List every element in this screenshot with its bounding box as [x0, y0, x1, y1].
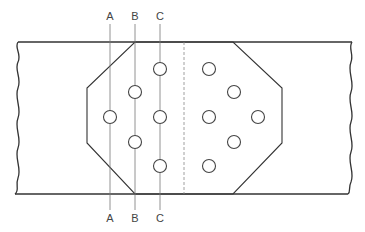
bolt-hole: [203, 160, 216, 173]
bolt-hole: [154, 111, 167, 124]
section-label-top-c: C: [156, 10, 164, 22]
section-label-bottom-b: B: [131, 212, 138, 224]
main-member: [15, 42, 352, 194]
section-label-bottom-a: A: [106, 212, 114, 224]
bolt-hole: [203, 63, 216, 76]
section-label-bottom-c: C: [156, 212, 164, 224]
bolt-hole: [129, 136, 142, 149]
right-break-line: [348, 42, 352, 194]
bolt-hole: [252, 111, 265, 124]
bolt-hole: [228, 136, 241, 149]
section-label-top-b: B: [131, 10, 138, 22]
bolt-hole: [104, 111, 117, 124]
bolt-hole: [203, 111, 216, 124]
bolt-hole: [228, 86, 241, 99]
splice-diagram: AABBCC: [0, 0, 365, 232]
bolt-hole: [129, 86, 142, 99]
section-label-top-a: A: [106, 10, 114, 22]
left-break-line: [15, 42, 19, 194]
bolt-hole: [154, 160, 167, 173]
bolt-hole: [154, 63, 167, 76]
